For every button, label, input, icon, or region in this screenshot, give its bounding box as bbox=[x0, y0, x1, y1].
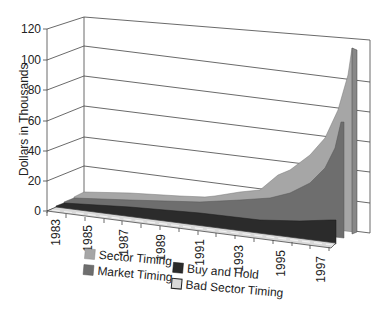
x-tick-1997: 1997 bbox=[314, 256, 328, 283]
y-axis-title: Dollars in Thousands bbox=[17, 63, 31, 176]
right-edge bbox=[352, 48, 357, 234]
legend-swatch-bad-sector-timing bbox=[171, 278, 182, 289]
y-tick-120: 120 bbox=[21, 22, 41, 36]
3d-area-chart: 0 20 40 60 80 100 120 Dollars in Thousan… bbox=[0, 0, 385, 322]
x-tick-1995: 1995 bbox=[274, 250, 288, 277]
legend-label-bad-sector-timing: Bad Sector Timing bbox=[185, 278, 284, 300]
y-tick-0: 0 bbox=[34, 204, 41, 218]
x-tick-1983: 1983 bbox=[49, 219, 63, 246]
legend-swatch-buy-and-hold bbox=[173, 262, 184, 273]
legend-item-bad-sector-timing: Bad Sector Timing bbox=[171, 276, 284, 300]
y-tick-marks bbox=[43, 29, 47, 211]
legend-swatch-sector-timing bbox=[85, 249, 96, 260]
legend-swatch-market-timing bbox=[83, 265, 94, 276]
x-tick-1985: 1985 bbox=[81, 225, 95, 252]
legend: Sector Timing Market Timing Buy and Hold… bbox=[82, 247, 285, 300]
